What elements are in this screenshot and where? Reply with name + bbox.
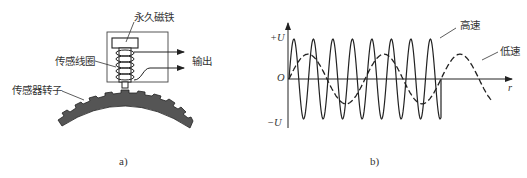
origin-label: O (277, 73, 285, 84)
waveform-chart (288, 23, 512, 128)
x-axis-label: r (508, 83, 512, 94)
caption-b: b) (370, 156, 379, 167)
y-pos-label: +U (270, 33, 285, 44)
low-speed-label: 低速 (500, 46, 520, 57)
sensor-tip (122, 82, 128, 88)
output-lead-2 (134, 68, 184, 80)
permanent-magnet (112, 38, 138, 48)
output-label: 输出 (192, 56, 212, 67)
high-speed-label: 高速 (460, 20, 480, 31)
pole-core (119, 48, 131, 82)
y-neg-label: −U (267, 118, 282, 129)
caption-a: a) (119, 156, 128, 167)
high-speed-leader (440, 28, 456, 38)
rotor-leader (62, 91, 84, 100)
figure-canvas (0, 0, 527, 178)
sensor-diagram (58, 22, 193, 128)
rotor-label: 传感器转子 (12, 85, 62, 96)
coil-leader (95, 61, 116, 67)
magnet-label: 永久磁铁 (134, 12, 174, 23)
low-speed-leader (482, 52, 498, 60)
coil-label: 传感线圈 (55, 56, 95, 67)
sensor-rotor (58, 90, 193, 128)
